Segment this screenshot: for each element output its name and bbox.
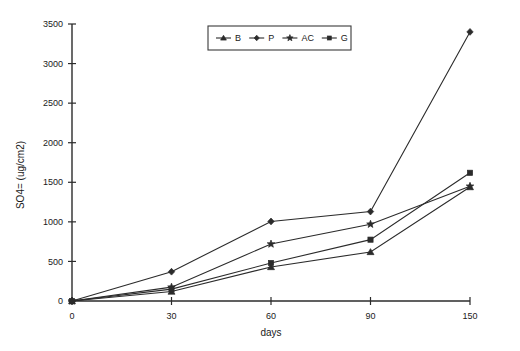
square-marker-icon [69,298,74,303]
legend-label-P: P [268,33,274,43]
star-marker-icon [267,240,275,247]
y-axis-ticks: 0500100015002000250030003500 [43,19,76,306]
star-marker-icon [367,220,375,227]
triangle-marker-icon [367,249,374,255]
square-marker-icon [268,260,273,265]
y-tick-label: 0 [58,296,63,306]
square-marker-icon [169,287,174,292]
diamond-marker-icon [268,218,274,225]
x-tick-label: 150 [462,311,477,321]
square-marker-icon [368,237,373,242]
series-group [68,29,474,305]
y-tick-label: 1500 [43,177,63,187]
x-tick-label: 60 [266,311,276,321]
y-axis-title: SO4= (ug/cm2) [15,141,26,209]
y-tick-label: 3000 [43,59,63,69]
line-chart: 0500100015002000250030003500 0306090150 … [0,0,520,351]
y-tick-label: 1000 [43,217,63,227]
x-axis-title: days [260,327,281,338]
x-tick-label: 30 [166,311,176,321]
y-tick-label: 3500 [43,19,63,29]
square-marker-icon [467,170,472,175]
legend-label-B: B [235,33,241,43]
square-marker-icon [327,36,331,40]
x-tick-label: 0 [69,311,74,321]
diamond-marker-icon [467,29,473,36]
y-tick-label: 500 [48,257,63,267]
series-line-G [72,173,470,301]
diamond-marker-icon [367,208,373,215]
chart-container: 0500100015002000250030003500 0306090150 … [0,0,520,351]
legend-label-AC: AC [301,33,314,43]
y-tick-label: 2500 [43,98,63,108]
diamond-marker-icon [168,268,174,275]
legend-label-G: G [341,33,348,43]
y-tick-label: 2000 [43,138,63,148]
x-tick-label: 90 [365,311,375,321]
series-AC [68,182,474,304]
chart-legend: BPACG [208,26,351,50]
